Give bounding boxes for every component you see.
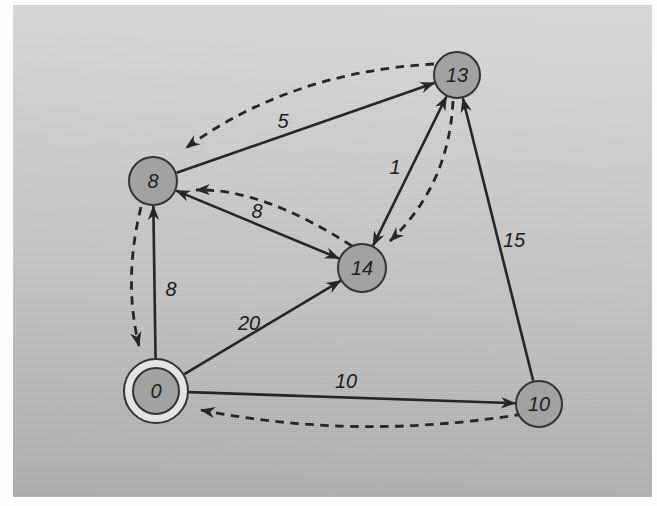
dashed-edge-8-0 <box>130 207 145 348</box>
edge-0-8: 8 <box>148 205 177 358</box>
dashed-edge-13-8 <box>182 64 434 153</box>
edge-weight-label: 15 <box>503 229 526 251</box>
dashed-edge-line <box>186 64 434 148</box>
dashed-edge-line <box>201 410 523 427</box>
edge-weight-label: 20 <box>237 312 260 334</box>
edge-weight-label: 8 <box>165 278 176 300</box>
edge-weight-label: 1 <box>389 156 400 178</box>
graph-diagram: 581820101513814010 <box>0 0 657 506</box>
edge-0-14: 20 <box>184 275 344 374</box>
node-10: 10 <box>516 381 562 427</box>
node-label: 10 <box>528 393 550 415</box>
edge-weight-label: 8 <box>251 200 262 222</box>
node-label: 8 <box>147 170 158 192</box>
dashed-edge-10-0 <box>199 404 523 426</box>
dashed-edge-line <box>131 207 141 346</box>
node-8: 8 <box>129 157 177 205</box>
edge-10-13: 15 <box>457 96 533 381</box>
node-label: 0 <box>150 380 161 402</box>
edge-13-14: 1 <box>367 93 451 249</box>
node-0: 0 <box>124 359 188 423</box>
edge-0-10: 10 <box>189 370 516 409</box>
edge-line <box>153 206 155 358</box>
dashed-edge-14-8 <box>195 184 352 246</box>
scanned-page: 581820101513814010 <box>0 0 657 506</box>
dashed-edge-line <box>196 190 352 246</box>
edge-8-14: 8 <box>173 185 342 264</box>
arrowhead-icon <box>182 135 201 153</box>
node-13: 13 <box>434 52 480 98</box>
node-14: 14 <box>338 244 386 292</box>
node-label: 13 <box>446 64 468 86</box>
node-label: 14 <box>351 257 373 279</box>
edge-line <box>184 281 340 374</box>
edge-line <box>373 97 446 246</box>
edge-weight-label: 10 <box>335 370 357 392</box>
edge-line <box>189 392 515 403</box>
edge-weight-label: 5 <box>277 110 289 132</box>
